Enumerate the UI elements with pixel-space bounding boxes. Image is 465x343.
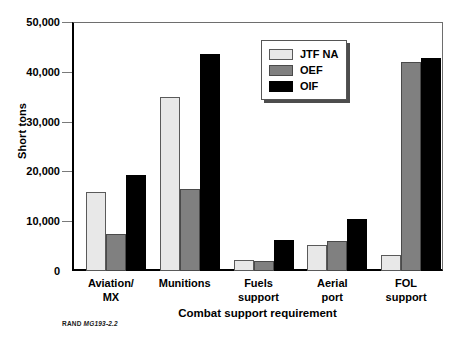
- legend-swatch-oif: [269, 81, 293, 92]
- y-axis-tick-label: 30,000: [2, 116, 60, 128]
- bars-layer: [74, 22, 443, 271]
- source-note-id: MG193-2.2: [84, 320, 118, 327]
- x-axis-title: Combat support requirement: [72, 307, 443, 319]
- bar-oif: [126, 175, 146, 271]
- source-note-prefix: RAND: [62, 320, 84, 327]
- bar-oif: [200, 54, 220, 271]
- bar-oif: [421, 58, 441, 271]
- bar-oif: [347, 219, 367, 271]
- bar-oef: [106, 234, 126, 271]
- y-axis-tick-label: 0: [2, 265, 60, 277]
- legend-item-label: JTF NA: [300, 48, 339, 60]
- bar-oef: [401, 62, 421, 271]
- bar-jtf-na: [381, 255, 401, 271]
- legend-item: OEF: [269, 62, 340, 78]
- bar-oef: [327, 241, 347, 271]
- bar-oef: [254, 261, 274, 271]
- y-axis-tick-label: 10,000: [2, 215, 60, 227]
- legend-item-label: OIF: [300, 80, 318, 92]
- bar-jtf-na: [86, 192, 106, 271]
- bar-group: [369, 22, 443, 271]
- y-axis-tick-label: 40,000: [2, 66, 60, 78]
- bar-group: [74, 22, 148, 271]
- bar-jtf-na: [234, 260, 254, 271]
- legend-item: OIF: [269, 78, 340, 94]
- legend-swatch-jtf-na: [269, 49, 293, 60]
- legend-swatch-oef: [269, 65, 293, 76]
- bar-oif: [274, 240, 294, 271]
- bar-jtf-na: [160, 97, 180, 271]
- x-axis-tick-label: FOLsupport: [357, 276, 455, 304]
- legend: JTF NAOEFOIF: [261, 40, 347, 100]
- bar-group: [148, 22, 222, 271]
- x-axis-tick-label-line: support: [357, 290, 455, 304]
- figure-bar-chart: Short tons 010,00020,00030,00040,00050,0…: [0, 0, 465, 343]
- source-note: RAND MG193-2.2: [62, 320, 118, 327]
- legend-item: JTF NA: [269, 46, 340, 62]
- y-axis-tick-label: 50,000: [2, 16, 60, 28]
- x-axis-tick-label-line: MX: [62, 290, 160, 304]
- bar-oef: [180, 189, 200, 271]
- legend-item-label: OEF: [300, 64, 323, 76]
- bar-jtf-na: [307, 245, 327, 271]
- x-axis-tick-label-line: FOL: [357, 276, 455, 290]
- y-axis-tick-label: 20,000: [2, 165, 60, 177]
